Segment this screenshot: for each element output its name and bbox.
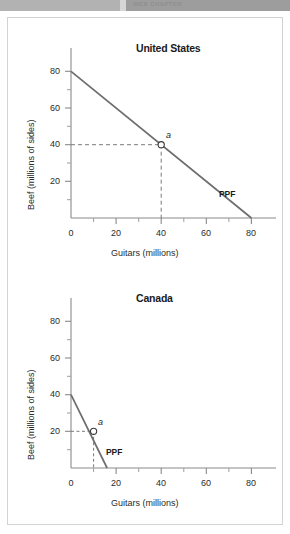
page-header-band: WEB CHAPTER xyxy=(0,0,290,11)
x-axis-label-ca: Guitars (millions) xyxy=(111,498,179,508)
chart-title-us: United States xyxy=(136,42,201,54)
x-tick-label-us-0: 0 xyxy=(61,228,81,238)
chart-title-ca: Canada xyxy=(136,292,173,304)
header-band-text: WEB CHAPTER xyxy=(133,1,283,7)
x-tick-label-us-60: 60 xyxy=(196,228,216,238)
chart-united-states: United States Beef (millions of sides) xyxy=(8,20,284,270)
header-strip-left xyxy=(0,0,120,11)
y-tick-label-us-20: 20 xyxy=(40,176,60,186)
x-tick-label-us-80: 80 xyxy=(241,228,261,238)
ppf-label-ca: PPF xyxy=(106,447,122,457)
x-axis-label-us: Guitars (millions) xyxy=(111,248,179,258)
y-tick-label-ca-80: 80 xyxy=(40,316,60,326)
x-tick-label-ca-0: 0 xyxy=(61,478,81,488)
y-tick-label-us-80: 80 xyxy=(40,66,60,76)
y-tick-label-us-60: 60 xyxy=(40,103,60,113)
figure-frame: United States Beef (millions of sides) xyxy=(7,17,283,525)
x-tick-label-us-20: 20 xyxy=(106,228,126,238)
x-tick-label-ca-60: 60 xyxy=(196,478,216,488)
y-tick-label-ca-20: 20 xyxy=(40,426,60,436)
chart-canada: Canada Beef (millions of sides) xyxy=(8,270,284,524)
x-tick-label-us-40: 40 xyxy=(151,228,171,238)
point-marker-a-us xyxy=(158,142,164,148)
y-tick-label-ca-60: 60 xyxy=(40,353,60,363)
point-marker-a-ca xyxy=(91,428,97,434)
x-tick-label-ca-20: 20 xyxy=(106,478,126,488)
point-label-a-ca: a xyxy=(98,417,103,427)
point-label-a-us: a xyxy=(166,130,171,140)
ppf-line-ca xyxy=(71,395,107,468)
x-tick-label-ca-80: 80 xyxy=(241,478,261,488)
x-tick-label-ca-40: 40 xyxy=(151,478,171,488)
y-axis-label-us: Beef (millions of sides) xyxy=(26,119,36,210)
ppf-label-us: PPF xyxy=(219,189,235,199)
figure-page: WEB CHAPTER United States Beef (millions… xyxy=(0,0,290,534)
y-axis-label-ca: Beef (millions of sides) xyxy=(26,369,36,460)
y-tick-label-ca-40: 40 xyxy=(40,389,60,399)
y-tick-label-us-40: 40 xyxy=(40,139,60,149)
